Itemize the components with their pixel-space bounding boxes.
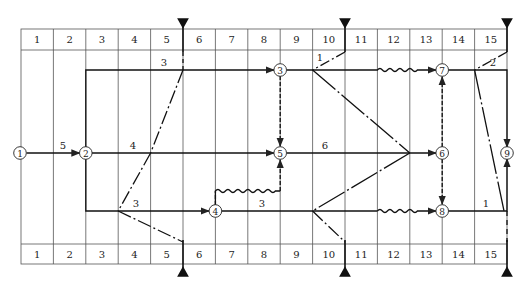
col-13: 13 bbox=[420, 34, 433, 45]
node-2: 2 bbox=[80, 147, 93, 160]
col-3: 3 bbox=[99, 249, 105, 260]
svg-text:8: 8 bbox=[439, 207, 445, 217]
col-8: 8 bbox=[261, 34, 267, 45]
bottom-time-scale: 1 2 3 4 5 6 7 8 9 10 11 12 13 14 15 bbox=[34, 249, 497, 260]
col-14: 14 bbox=[452, 249, 465, 260]
node-3: 3 bbox=[274, 64, 287, 77]
col-14: 14 bbox=[452, 34, 465, 45]
col-7: 7 bbox=[228, 34, 234, 45]
duration-2-4: 3 bbox=[133, 198, 139, 209]
col-11: 11 bbox=[355, 249, 368, 260]
duration-1-2: 5 bbox=[60, 140, 66, 151]
check-marker-bottom-icon bbox=[179, 268, 188, 276]
nodes: 1 2 3 4 5 6 7 8 bbox=[14, 64, 514, 218]
col-5: 5 bbox=[164, 249, 170, 260]
node-7: 7 bbox=[436, 64, 449, 77]
check-marker-top-icon bbox=[179, 19, 188, 27]
col-9: 9 bbox=[293, 249, 299, 260]
col-5: 5 bbox=[164, 34, 170, 45]
col-11: 11 bbox=[355, 34, 368, 45]
col-15: 15 bbox=[484, 249, 497, 260]
free-float-3-7 bbox=[345, 69, 436, 72]
node-5: 5 bbox=[274, 147, 287, 160]
col-10: 10 bbox=[322, 34, 335, 45]
col-4: 4 bbox=[131, 249, 137, 260]
duration-4-8: 3 bbox=[259, 198, 265, 209]
activity-7-9 bbox=[449, 70, 508, 147]
free-float-4-8 bbox=[377, 210, 436, 213]
col-12: 12 bbox=[387, 34, 400, 45]
network-diagram: 1 2 3 4 5 6 7 8 9 10 11 12 13 14 15 1 2 … bbox=[0, 0, 523, 285]
time-grid bbox=[21, 29, 507, 264]
col-6: 6 bbox=[196, 249, 202, 260]
node-8: 8 bbox=[436, 205, 449, 218]
activities bbox=[27, 69, 508, 213]
col-10: 10 bbox=[322, 249, 335, 260]
node-4: 4 bbox=[209, 205, 222, 218]
float-7: 2 bbox=[490, 57, 496, 68]
col-7: 7 bbox=[228, 249, 234, 260]
duration-8-9: 1 bbox=[483, 198, 489, 209]
node-9: 9 bbox=[501, 147, 514, 160]
dummy-activities bbox=[215, 76, 442, 205]
col-2: 2 bbox=[66, 249, 72, 260]
svg-text:2: 2 bbox=[83, 149, 89, 159]
node-6: 6 bbox=[436, 147, 449, 160]
svg-text:6: 6 bbox=[439, 149, 445, 159]
check-marker-bottom-icon bbox=[503, 268, 512, 276]
duration-5-6: 6 bbox=[322, 140, 328, 151]
node-1: 1 bbox=[14, 147, 27, 160]
svg-text:7: 7 bbox=[439, 66, 445, 76]
top-time-scale: 1 2 3 4 5 6 7 8 9 10 11 12 13 14 15 bbox=[34, 34, 497, 45]
col-1: 1 bbox=[34, 34, 40, 45]
col-1: 1 bbox=[34, 249, 40, 260]
col-6: 6 bbox=[196, 34, 202, 45]
col-4: 4 bbox=[131, 34, 137, 45]
col-12: 12 bbox=[387, 249, 400, 260]
svg-text:4: 4 bbox=[213, 207, 219, 217]
col-9: 9 bbox=[293, 34, 299, 45]
col-2: 2 bbox=[66, 34, 72, 45]
svg-text:3: 3 bbox=[277, 66, 283, 76]
activity-2-4 bbox=[86, 159, 209, 211]
duration-2-5: 4 bbox=[130, 140, 136, 151]
svg-text:1: 1 bbox=[17, 149, 23, 159]
col-3: 3 bbox=[99, 34, 105, 45]
col-8: 8 bbox=[261, 249, 267, 260]
activity-2-3 bbox=[86, 70, 274, 147]
col-15: 15 bbox=[484, 34, 497, 45]
float-3: 1 bbox=[317, 52, 323, 63]
duration-2-3: 3 bbox=[161, 57, 167, 68]
svg-text:5: 5 bbox=[277, 149, 283, 159]
check-marker-top-icon bbox=[341, 19, 350, 27]
svg-text:9: 9 bbox=[504, 149, 510, 159]
check-marker-bottom-icon bbox=[341, 268, 350, 276]
check-marker-top-icon bbox=[503, 19, 512, 27]
col-13: 13 bbox=[420, 249, 433, 260]
